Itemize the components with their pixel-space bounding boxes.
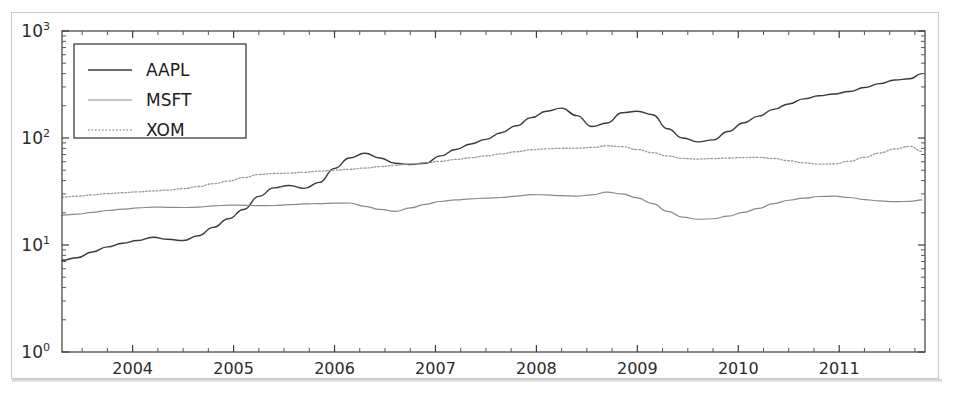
y-tick-label: 103 — [21, 20, 50, 41]
legend-label-msft[interactable]: MSFT — [146, 90, 192, 110]
x-tick-label: 2005 — [213, 359, 254, 378]
chart-legend[interactable]: AAPLMSFTXOM — [74, 44, 246, 140]
y-tick-label: 101 — [21, 234, 50, 255]
x-tick-label: 2004 — [112, 359, 153, 378]
legend-label-xom[interactable]: XOM — [146, 120, 185, 140]
x-tick-label: 2006 — [314, 359, 355, 378]
legend-label-aapl[interactable]: AAPL — [146, 60, 190, 80]
y-tick-label: 100 — [21, 341, 50, 362]
x-tick-label: 2009 — [617, 359, 658, 378]
y-axis-tick-labels: 100101102103 — [21, 20, 50, 362]
x-tick-label: 2007 — [415, 359, 456, 378]
figure-page: 100101102103 200420052006200720082009201… — [0, 0, 954, 407]
chart-canvas: 100101102103 200420052006200720082009201… — [0, 0, 954, 407]
x-axis-tick-labels: 20042005200620072008200920102011 — [112, 359, 859, 378]
stock-price-chart-figure: 100101102103 200420052006200720082009201… — [0, 0, 954, 407]
y-tick-label: 102 — [21, 127, 50, 148]
x-tick-label: 2010 — [718, 359, 759, 378]
x-tick-label: 2011 — [819, 359, 860, 378]
x-tick-label: 2008 — [516, 359, 557, 378]
